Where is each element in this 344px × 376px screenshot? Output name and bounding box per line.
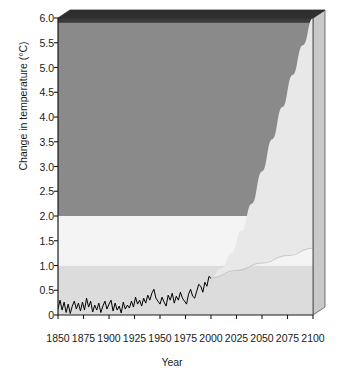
temperature-projection-chart: Change in temperature (°C) 00.51.01.52.0… xyxy=(0,0,344,376)
y-tick-label: 5.0 xyxy=(20,62,54,74)
y-tick-label: 0.5 xyxy=(20,284,54,296)
band-top xyxy=(58,18,313,23)
y-tick-label: 4.0 xyxy=(20,111,54,123)
x-axis-title: Year xyxy=(0,356,344,368)
y-tick-label: 4.5 xyxy=(20,86,54,98)
y-tick-label: 3.0 xyxy=(20,161,54,173)
y-tick-label: 5.5 xyxy=(20,37,54,49)
y-tick-label: 3.5 xyxy=(20,136,54,148)
y-tick-label: 2.5 xyxy=(20,185,54,197)
y-tick-label: 1.5 xyxy=(20,235,54,247)
x-axis-tick-labels: 1850187519001925195019752000202520502075… xyxy=(0,322,344,342)
y-axis-tick-labels: 00.51.01.52.02.53.03.54.04.55.05.56.0 xyxy=(16,0,54,376)
y-tick-label: 1.0 xyxy=(20,260,54,272)
y-tick-label: 0 xyxy=(20,309,54,321)
x-tick-label: 2100 xyxy=(291,332,335,344)
y-tick-label: 2.0 xyxy=(20,210,54,222)
y-tick-label: 6.0 xyxy=(20,12,54,24)
